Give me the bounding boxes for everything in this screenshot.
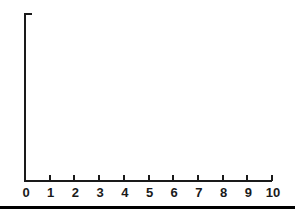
x-axis-tick [271, 175, 273, 181]
y-axis-line [24, 13, 26, 182]
x-axis-tick [246, 175, 248, 181]
x-axis-tick [24, 175, 26, 181]
y-axis-top-tick [24, 13, 32, 15]
x-axis-tick [222, 175, 224, 181]
x-axis-tick [197, 175, 199, 181]
plot-area [24, 13, 271, 181]
x-axis-tick [148, 175, 150, 181]
x-axis-tick-label: 10 [258, 185, 288, 200]
x-axis-tick [73, 175, 75, 181]
x-axis-tick [123, 175, 125, 181]
x-axis-tick [172, 175, 174, 181]
x-axis-tick [98, 175, 100, 181]
chart-canvas: 012345678910 [0, 0, 295, 215]
x-axis-tick [49, 175, 51, 181]
bottom-horizontal-rule [0, 206, 295, 209]
